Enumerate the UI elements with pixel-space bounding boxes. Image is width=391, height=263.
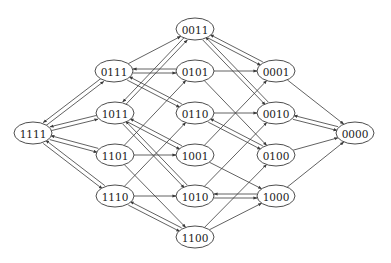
edge-0111-to-0110: [127, 80, 180, 107]
edge-0100-to-0110: [210, 119, 263, 146]
node-label: 0110: [182, 108, 209, 120]
edge-0011-to-0001: [208, 38, 261, 65]
node-label: 0100: [263, 150, 290, 162]
nodes-layer: 1111011110111101111000110101011010011010…: [14, 18, 374, 248]
edge-1011-to-1001: [128, 122, 180, 149]
node-label: 1110: [102, 191, 129, 203]
edge-0001-to-0000: [287, 80, 343, 124]
node-label: 1000: [263, 191, 290, 203]
node-label: 0010: [263, 108, 290, 120]
edge-1100-to-1000: [209, 203, 261, 230]
node-0100: 0100: [257, 144, 295, 166]
edge-1111-to-0111: [46, 81, 104, 125]
edge-0100-to-0000: [293, 138, 338, 150]
node-1011: 1011: [96, 102, 134, 124]
edge-1110-to-1100: [128, 205, 180, 231]
node-1001: 1001: [176, 144, 214, 166]
node-label: 0111: [101, 66, 128, 78]
edge-0111-to-0011: [128, 36, 181, 63]
node-label: 0011: [182, 24, 209, 36]
node-1111: 1111: [14, 122, 52, 144]
node-label: 0000: [342, 128, 369, 140]
node-label: 0101: [182, 66, 209, 78]
node-0001: 0001: [257, 60, 295, 82]
node-label: 1010: [182, 191, 209, 203]
edge-0110-to-0111: [129, 77, 182, 104]
node-0011: 0011: [176, 18, 214, 40]
edge-1001-to-1000: [209, 162, 261, 189]
node-1100: 1100: [176, 226, 214, 248]
node-0000: 0000: [336, 122, 374, 144]
state-transition-graph: 1111011110111101111000110101011010011010…: [0, 0, 391, 263]
node-1010: 1010: [176, 185, 214, 207]
node-label: 1011: [102, 108, 129, 120]
node-0111: 0111: [95, 60, 133, 82]
node-1101: 1101: [96, 144, 134, 166]
node-1110: 1110: [96, 185, 134, 207]
edge-1001-to-1011: [130, 119, 182, 146]
node-0101: 0101: [176, 60, 214, 82]
edge-1100-to-1110: [130, 202, 182, 228]
node-0010: 0010: [257, 102, 295, 124]
node-1000: 1000: [257, 185, 295, 207]
edge-1111-to-1110: [43, 143, 102, 188]
node-label: 1100: [182, 232, 209, 244]
node-label: 1001: [182, 150, 209, 162]
node-label: 0001: [263, 66, 290, 78]
edge-1000-to-0000: [287, 142, 344, 187]
edge-0110-to-0100: [208, 122, 261, 149]
node-label: 1101: [102, 150, 129, 162]
edge-1110-to-1111: [46, 140, 105, 185]
node-0110: 0110: [176, 102, 214, 124]
node-label: 1111: [20, 128, 47, 140]
edge-0111-to-1111: [43, 78, 101, 122]
edge-0001-to-0011: [210, 35, 263, 62]
